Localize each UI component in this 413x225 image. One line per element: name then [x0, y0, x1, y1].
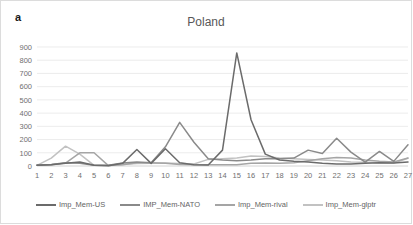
- x-axis-tick-labels: 1234567891011121314151617181920212223242…: [35, 171, 412, 180]
- x-axis-tick-label: 5: [92, 171, 96, 180]
- y-axis-tick-label: 400: [19, 109, 32, 118]
- chart-legend: Imp_Mem-USIMP_Mem-NATOImp_Mem-rivalImp_M…: [1, 200, 411, 209]
- legend-line-swatch: [36, 204, 56, 206]
- line-chart-svg: 0100200300400500600700800900 12345678910…: [1, 1, 413, 225]
- x-axis-tick-label: 7: [121, 171, 125, 180]
- legend-label: Imp_Mem-US: [59, 200, 105, 209]
- x-axis-tick-label: 23: [347, 171, 355, 180]
- y-axis-tick-labels: 0100200300400500600700800900: [19, 43, 32, 171]
- x-axis-tick-label: 2: [49, 171, 53, 180]
- x-axis-tick-label: 21: [318, 171, 326, 180]
- x-axis-tick-label: 26: [390, 171, 398, 180]
- y-axis-tick-label: 900: [19, 43, 32, 52]
- x-axis-tick-label: 25: [375, 171, 383, 180]
- y-axis-tick-label: 300: [19, 122, 32, 131]
- legend-label: Imp_Mem-rival: [238, 200, 288, 209]
- y-axis-tick-label: 800: [19, 56, 32, 65]
- legend-label: Imp_Mem-glptr: [326, 200, 376, 209]
- x-axis-tick-label: 8: [135, 171, 139, 180]
- x-axis-tick-label: 9: [149, 171, 153, 180]
- y-axis-tick-label: 700: [19, 69, 32, 78]
- legend-item[interactable]: Imp_Mem-rival: [215, 200, 288, 209]
- x-axis-tick-label: 27: [404, 171, 412, 180]
- x-axis-tick-label: 11: [176, 171, 184, 180]
- series-line: [37, 53, 408, 166]
- legend-item[interactable]: Imp_Mem-glptr: [303, 200, 376, 209]
- x-axis-tick-label: 24: [361, 171, 369, 180]
- x-axis-tick-label: 1: [35, 171, 39, 180]
- x-axis-tick-label: 12: [190, 171, 198, 180]
- series-lines: [37, 53, 408, 166]
- legend-line-swatch: [120, 204, 140, 206]
- x-axis-tick-label: 19: [290, 171, 298, 180]
- x-axis-tick-label: 4: [78, 171, 82, 180]
- x-axis-tick-label: 20: [304, 171, 312, 180]
- x-axis-tick-label: 17: [261, 171, 269, 180]
- y-axis-tick-label: 0: [28, 162, 32, 171]
- y-axis-tick-label: 200: [19, 135, 32, 144]
- x-axis-tick-label: 6: [106, 171, 110, 180]
- x-axis-tick-label: 22: [332, 171, 340, 180]
- y-axis-tick-label: 500: [19, 96, 32, 105]
- legend-line-swatch: [303, 204, 323, 206]
- x-axis-tick-label: 18: [275, 171, 283, 180]
- x-axis-tick-label: 13: [204, 171, 212, 180]
- legend-item[interactable]: Imp_Mem-US: [36, 200, 105, 209]
- y-axis-tick-label: 100: [19, 149, 32, 158]
- legend-label: IMP_Mem-NATO: [143, 200, 200, 209]
- x-axis-tick-label: 10: [161, 171, 169, 180]
- plot-area: 0100200300400500600700800900 12345678910…: [1, 1, 413, 225]
- x-axis-tick-label: 14: [218, 171, 226, 180]
- y-axis-tick-label: 600: [19, 82, 32, 91]
- x-axis-tick-label: 3: [63, 171, 67, 180]
- x-axis-tick-label: 16: [247, 171, 255, 180]
- legend-line-swatch: [215, 204, 235, 206]
- legend-item[interactable]: IMP_Mem-NATO: [120, 200, 200, 209]
- x-axis-tick-label: 15: [233, 171, 241, 180]
